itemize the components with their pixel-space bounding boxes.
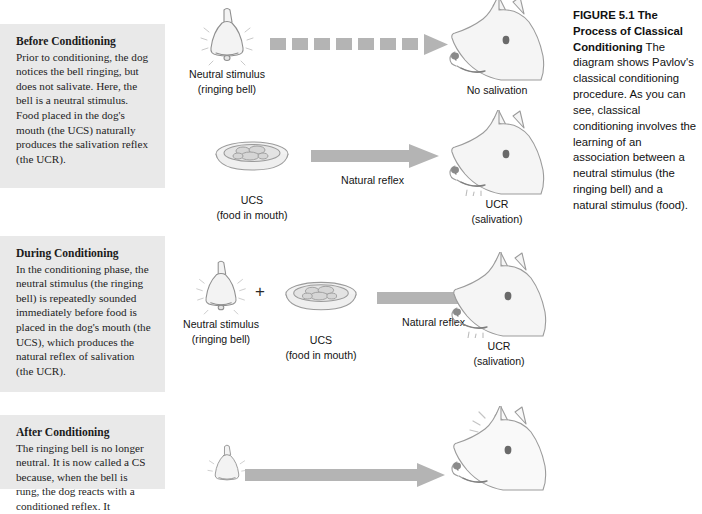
plus-sign: +: [255, 283, 265, 300]
row3-ucs-label-line1: UCS: [269, 334, 373, 347]
saliva-drops: [468, 332, 483, 338]
panel-after-title: After Conditioning: [16, 425, 153, 440]
row2-stimulus-label-line2: (food in mouth): [197, 209, 307, 222]
panel-during-body: In the conditioning phase, the neutral s…: [16, 262, 153, 379]
panel-before-conditioning: Before Conditioning Prior to conditionin…: [0, 24, 165, 188]
row2-stimulus-node: UCS (food in mouth): [197, 138, 307, 222]
bell-icon: [205, 440, 249, 489]
panel-during-title: During Conditioning: [16, 246, 153, 261]
panel-during-conditioning: During Conditioning In the conditioning …: [0, 236, 165, 392]
row1-stimulus-node: Neutral stimulus (ringing bell): [173, 4, 281, 96]
figure-caption: FIGURE 5.1 The Process of Classical Cond…: [573, 8, 697, 214]
diagram-stage: Neutral stimulus (ringing bell): [165, 0, 573, 489]
figure-caption-title: FIGURE 5.1 The Process of Classical Cond…: [573, 9, 683, 53]
food-bowl-icon: [212, 138, 292, 178]
row3-response-label-line1: UCR: [443, 340, 555, 353]
row1-stimulus-label-line2: (ringing bell): [173, 83, 281, 96]
row4-solid-arrow: [245, 462, 445, 488]
row3-stimulus-label-line1: Neutral stimulus: [167, 318, 275, 331]
panel-before-title: Before Conditioning: [16, 34, 153, 49]
food-bowl-icon: [282, 278, 360, 318]
dog-head-salivating-icon: [449, 252, 549, 338]
row4-response-node: [443, 406, 555, 492]
row1-dashed-arrow: [270, 33, 448, 57]
row1-response-label: No salivation: [441, 84, 553, 97]
row2-response-node: UCR (salivation): [441, 110, 553, 226]
row3-ucs-node: UCS (food in mouth): [269, 278, 373, 362]
panel-after-body: The ringing bell is no longer neutral. I…: [16, 441, 153, 514]
panel-after-conditioning: After Conditioning The ringing bell is n…: [0, 415, 165, 489]
saliva-drops: [466, 190, 481, 196]
row3-stimulus-label-line2: (ringing bell): [167, 333, 275, 346]
row3-ucs-label-line2: (food in mouth): [269, 349, 373, 362]
bell-icon: [197, 4, 257, 66]
row2-solid-arrow: [311, 143, 439, 169]
panel-before-body: Prior to conditioning, the dog notices t…: [16, 50, 153, 167]
row3-response-node: UCR (salivation): [443, 252, 555, 368]
row1-response-node: No salivation: [441, 0, 553, 97]
row1-stimulus-label-line1: Neutral stimulus: [173, 68, 281, 81]
figure-caption-body: The diagram shows Pavlov's classical con…: [573, 41, 696, 211]
row2-response-label-line2: (salivation): [441, 213, 553, 226]
dog-head-salivating-icon: [447, 110, 547, 196]
dog-head-icon: [447, 0, 547, 82]
bell-icon: [193, 256, 249, 316]
row2-response-label-line1: UCR: [441, 198, 553, 211]
ear-motion-lines: [470, 412, 485, 432]
row2-arrow-label: Natural reflex: [341, 174, 404, 186]
row3-response-label-line2: (salivation): [443, 355, 555, 368]
row2-stimulus-label-line1: UCS: [197, 194, 307, 207]
dog-head-salivating-icon: [449, 406, 549, 492]
